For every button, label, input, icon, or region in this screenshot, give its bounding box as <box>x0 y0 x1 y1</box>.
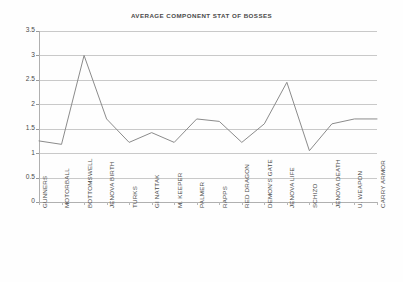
x-tick-mark <box>84 202 85 205</box>
x-tick-mark <box>309 202 310 205</box>
y-tick-mark <box>36 80 39 81</box>
x-tick-mark <box>377 202 378 205</box>
y-tick-mark <box>36 55 39 56</box>
x-tick-mark <box>39 202 40 205</box>
y-tick-mark <box>36 129 39 130</box>
x-tick-mark <box>152 202 153 205</box>
y-tick-mark <box>36 178 39 179</box>
chart-container: AVERAGE COMPONENT STAT OF BOSSES 00.511.… <box>0 0 403 282</box>
x-tick-mark <box>354 202 355 205</box>
y-tick-mark <box>36 153 39 154</box>
series-line-chart <box>0 0 403 282</box>
x-tick-mark <box>219 202 220 205</box>
x-tick-mark <box>197 202 198 205</box>
x-tick-mark <box>129 202 130 205</box>
series-polyline <box>39 55 377 150</box>
x-tick-mark <box>62 202 63 205</box>
y-tick-mark <box>36 104 39 105</box>
x-tick-mark <box>174 202 175 205</box>
x-tick-mark <box>332 202 333 205</box>
x-tick-mark <box>264 202 265 205</box>
y-tick-mark <box>36 31 39 32</box>
x-tick-mark <box>287 202 288 205</box>
x-tick-mark <box>107 202 108 205</box>
x-tick-mark <box>242 202 243 205</box>
